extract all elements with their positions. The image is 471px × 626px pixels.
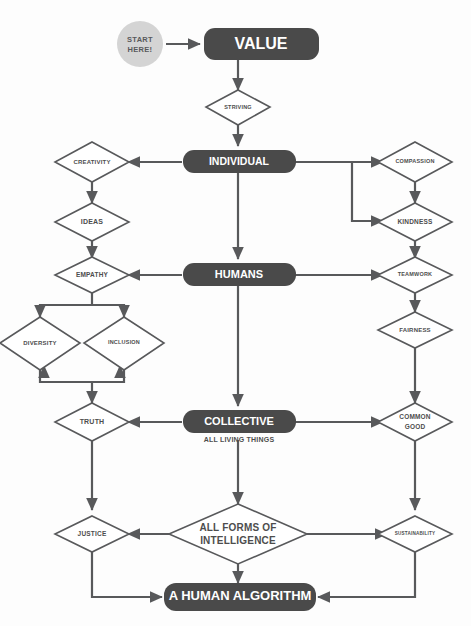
node-common-good[interactable]: COMMON GOOD: [378, 403, 452, 441]
node-all-forms-of-intelligence[interactable]: ALL FORMS OF INTELLIGENCE: [169, 504, 307, 564]
commongood-label-line2: GOOD: [405, 423, 426, 430]
striving-label: STRIVING: [224, 104, 252, 110]
collective-box-label: COLLECTIVE: [204, 415, 274, 427]
creativity-label: CREATIVITY: [73, 159, 110, 165]
node-creativity[interactable]: CREATIVITY: [55, 142, 129, 182]
edge-empathy-to-diversity: [40, 293, 92, 317]
edge-empathy-to-inclusion: [92, 305, 124, 317]
teamwork-label: TEAMWORK: [398, 271, 433, 277]
value-box-label: VALUE: [234, 35, 287, 52]
edge-inclusion-merge: [92, 370, 124, 382]
node-diversity[interactable]: DIVERSITY: [0, 317, 80, 370]
truth-label: TRUTH: [80, 418, 105, 425]
start-label-line2: HERE!: [128, 45, 153, 54]
edge-individual-to-kindness: [352, 162, 383, 221]
start-circle-shape: [117, 21, 163, 67]
node-kindness[interactable]: KINDNESS: [378, 203, 452, 241]
node-ideas[interactable]: IDEAS: [55, 203, 129, 241]
inclusion-label: INCLUSION: [108, 339, 140, 345]
collective-sub-label: ALL LIVING THINGS: [204, 436, 275, 443]
node-truth[interactable]: TRUTH: [55, 403, 129, 441]
node-compassion[interactable]: COMPASSION: [378, 142, 452, 182]
node-collective[interactable]: COLLECTIVE ALL LIVING THINGS: [183, 410, 296, 443]
diversity-label: DIVERSITY: [23, 340, 56, 346]
node-inclusion[interactable]: INCLUSION: [84, 317, 164, 370]
justice-label: JUSTICE: [78, 530, 107, 537]
node-striving[interactable]: STRIVING: [206, 90, 270, 125]
start-label-line1: START: [127, 35, 153, 44]
edge-diversity-merge: [40, 370, 92, 382]
node-value[interactable]: VALUE: [204, 28, 319, 60]
node-justice[interactable]: JUSTICE: [55, 516, 129, 552]
node-humans[interactable]: HUMANS: [183, 263, 296, 286]
algorithm-box-label: A HUMAN ALGORITHM: [169, 588, 312, 603]
node-sustainability[interactable]: SUSTAINABILITY: [378, 516, 452, 552]
humans-box-label: HUMANS: [215, 268, 263, 280]
empathy-label: EMPATHY: [76, 271, 109, 278]
flowchart-svg: START HERE! VALUE STRIVING INDIVIDUAL CR…: [0, 0, 471, 626]
edge-sustainability-to-algorithm: [318, 552, 415, 597]
sustainability-label: SUSTAINABILITY: [395, 531, 436, 536]
node-empathy[interactable]: EMPATHY: [55, 257, 129, 293]
commongood-label-line1: COMMON: [399, 413, 431, 420]
edge-justice-to-algorithm: [92, 552, 162, 597]
fairness-label: FAIRNESS: [399, 327, 431, 333]
allforms-label-line2: INTELLIGENCE: [200, 535, 276, 546]
ideas-label: IDEAS: [81, 218, 104, 225]
kindness-label: KINDNESS: [397, 218, 433, 225]
start-here-node[interactable]: START HERE!: [117, 21, 163, 67]
compassion-label: COMPASSION: [395, 158, 434, 164]
node-a-human-algorithm[interactable]: A HUMAN ALGORITHM: [164, 583, 316, 611]
node-teamwork[interactable]: TEAMWORK: [378, 257, 452, 293]
allforms-label-line1: ALL FORMS OF: [199, 522, 276, 533]
flowchart-canvas: START HERE! VALUE STRIVING INDIVIDUAL CR…: [0, 0, 471, 626]
node-individual[interactable]: INDIVIDUAL: [183, 150, 296, 173]
node-fairness[interactable]: FAIRNESS: [378, 312, 452, 348]
individual-box-label: INDIVIDUAL: [209, 155, 270, 167]
